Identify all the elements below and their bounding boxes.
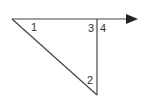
arrowhead-icon	[126, 14, 138, 24]
hypotenuse	[12, 19, 97, 95]
angle-3-label: 3	[88, 22, 94, 34]
triangle-diagram: 1 3 4 2	[0, 0, 142, 105]
angle-2-label: 2	[87, 74, 93, 86]
angle-4-label: 4	[100, 22, 106, 34]
angle-1-label: 1	[31, 21, 37, 33]
